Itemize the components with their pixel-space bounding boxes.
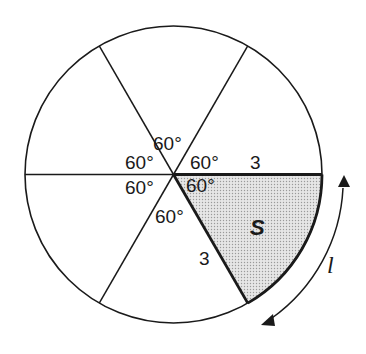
angle-label-lower-right: 60° [186,175,215,196]
arrowhead-down-icon [261,314,275,326]
radius-length-label-top: 3 [250,152,261,173]
radius-length-label-slanted: 3 [199,248,210,269]
angle-label-upper-right: 60° [190,152,219,173]
angle-label-lower-left: 60° [125,177,154,198]
angle-label-top: 60° [153,133,182,154]
arrowhead-up-icon [338,175,350,187]
angle-label-bottom: 60° [155,206,184,227]
sector-label-s: S [250,215,265,240]
arc-length-label-l: l [327,252,334,278]
circle-sector-diagram: 60° 60° 60° 60° 60° 60° 3 3 S l [0,0,366,354]
angle-label-upper-left: 60° [125,152,154,173]
